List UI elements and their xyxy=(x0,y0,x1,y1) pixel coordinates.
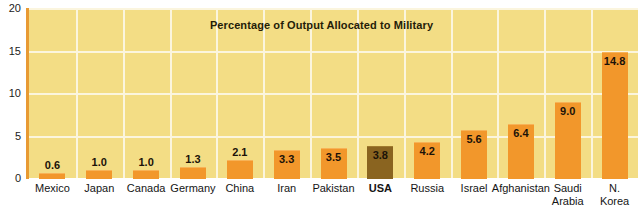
gridline-horizontal xyxy=(29,93,638,95)
gridline-horizontal xyxy=(29,8,638,10)
bar-value-label: 6.4 xyxy=(513,128,528,139)
bar xyxy=(86,170,112,180)
bar xyxy=(227,160,253,179)
y-axis-tick-label: 15 xyxy=(9,45,21,56)
bar-value-label: 1.0 xyxy=(92,157,107,168)
gridline-vertical xyxy=(123,8,125,178)
bar xyxy=(180,167,206,179)
y-axis-tick-label: 20 xyxy=(9,3,21,14)
bar xyxy=(602,52,628,179)
x-axis-category-label: Mexico xyxy=(35,182,70,195)
gridline-vertical xyxy=(263,8,265,178)
x-axis-category-labels: MexicoJapanCanadaGermanyChinaIranPakista… xyxy=(0,180,643,218)
x-axis-category-label: Israel xyxy=(461,182,488,195)
bar-value-label: 0.6 xyxy=(45,160,60,171)
bar-value-label: 1.3 xyxy=(185,154,200,165)
gridline-horizontal xyxy=(29,51,638,53)
bar-value-label: 3.3 xyxy=(279,154,294,165)
bar-value-label: 9.0 xyxy=(560,106,575,117)
x-axis-category-label: Afghanistan xyxy=(492,182,550,195)
bar-value-label: 1.0 xyxy=(138,157,153,168)
gridline-vertical xyxy=(310,8,312,178)
bar-chart: 05101520 Percentage of Output Allocated … xyxy=(0,0,643,218)
gridline-vertical xyxy=(497,8,499,178)
x-axis-category-label: Germany xyxy=(170,182,215,195)
x-axis-category-label: Saudi Arabia xyxy=(552,182,584,208)
gridline-vertical xyxy=(544,8,546,178)
x-axis-category-label: Canada xyxy=(127,182,166,195)
x-axis-category-label: Iran xyxy=(277,182,296,195)
x-axis-category-label: Japan xyxy=(84,182,114,195)
y-axis-line xyxy=(26,8,29,179)
bar-value-label: 14.8 xyxy=(604,56,625,67)
gridline-vertical xyxy=(451,8,453,178)
bar-value-label: 2.1 xyxy=(232,147,247,158)
x-axis-category-label: N. Korea xyxy=(600,182,629,208)
y-axis-tick-label: 10 xyxy=(9,88,21,99)
gridline-vertical xyxy=(591,8,593,178)
x-axis-category-label: USA xyxy=(369,182,392,195)
x-axis-category-label: Pakistan xyxy=(312,182,354,195)
gridline-horizontal xyxy=(29,136,638,138)
bar-value-label: 5.6 xyxy=(466,134,481,145)
y-axis-tick-label: 5 xyxy=(15,130,21,141)
gridline-vertical xyxy=(76,8,78,178)
bar-value-label: 3.5 xyxy=(326,152,341,163)
chart-title: Percentage of Output Allocated to Milita… xyxy=(0,19,643,31)
gridline-vertical xyxy=(404,8,406,178)
gridline-vertical xyxy=(357,8,359,178)
bar xyxy=(39,173,65,179)
x-axis-category-label: Russia xyxy=(410,182,444,195)
gridline-vertical xyxy=(170,8,172,178)
bar-value-label: 3.8 xyxy=(373,150,388,161)
bar xyxy=(133,170,159,180)
x-axis-category-label: China xyxy=(225,182,254,195)
gridline-vertical xyxy=(216,8,218,178)
bar-value-label: 4.2 xyxy=(420,146,435,157)
